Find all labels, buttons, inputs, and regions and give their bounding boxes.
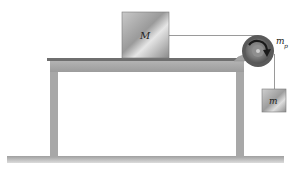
block-M: M [122,12,169,58]
table-apron [50,61,244,72]
ground [7,156,284,163]
block-m-label: m [269,96,278,106]
table-leg-right [236,62,244,157]
pulley-label-subscript: p [284,42,288,50]
table-top [47,58,249,61]
block-m: m [262,89,286,112]
pulley-diagram: M m m p [0,0,299,173]
table-leg-left [50,62,58,157]
block-M-label: M [139,30,151,41]
pulley [242,35,274,67]
